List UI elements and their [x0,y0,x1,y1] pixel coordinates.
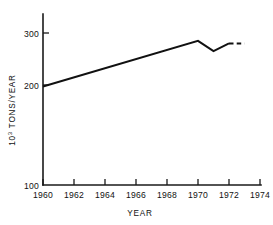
svg-text:103 TONS/YEAR: 103 TONS/YEAR [7,74,17,146]
y-axis-title-rest: TONS/YEAR [8,74,17,131]
y-axis-title-base: 10 [8,135,17,146]
x-tick-marks [43,179,260,185]
y-tick-marks [43,33,49,85]
x-tick-label-1962: 1962 [64,190,84,200]
y-tick-label-300: 300 [24,29,39,39]
x-tick-label-1974: 1974 [250,190,270,200]
x-tick-label-1970: 1970 [188,190,208,200]
x-tick-label-1964: 1964 [95,190,115,200]
chart-figure: 300 200 100 1960 1962 1964 1966 1968 197… [0,0,273,225]
y-tick-label-100: 100 [24,181,39,191]
x-axis-title: YEAR [127,209,152,218]
x-tick-label-1972: 1972 [219,190,239,200]
x-tick-label-1968: 1968 [157,190,177,200]
y-tick-label-200: 200 [24,81,39,91]
chart-canvas: 300 200 100 1960 1962 1964 1966 1968 197… [0,0,273,225]
data-line-solid [43,41,229,87]
y-axis-title: 103 TONS/YEAR [7,74,17,146]
x-tick-label-1966: 1966 [126,190,146,200]
x-tick-label-1960: 1960 [33,190,53,200]
